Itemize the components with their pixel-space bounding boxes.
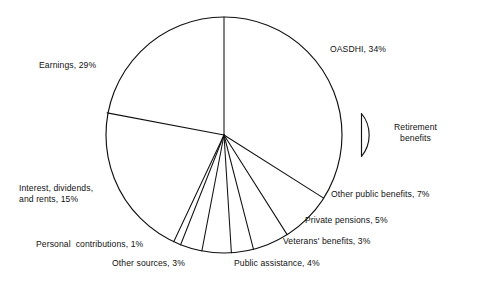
- label-private-pensions: Private pensions, 5%: [305, 215, 388, 226]
- label-other-sources: Other sources, 3%: [112, 258, 185, 269]
- retirement-benefits-wedge-icon: [362, 114, 370, 157]
- label-oasdhi: OASDHI, 34%: [330, 44, 386, 55]
- label-personal-contributions: Personal contributions, 1%: [36, 239, 143, 250]
- label-other-public-benefits: Other public benefits, 7%: [331, 189, 430, 200]
- label-public-assistance: Public assistance, 4%: [234, 258, 320, 269]
- label-earnings: Earnings, 29%: [39, 60, 96, 71]
- label-retirement-benefits-line1: Retirement: [394, 122, 437, 133]
- label-veterans-benefits: Veterans' benefits, 3%: [283, 236, 370, 247]
- label-retirement-benefits-line2: benefits: [400, 133, 431, 144]
- pie-chart-figure: OASDHI, 34% Earnings, 29% Interest, divi…: [0, 0, 480, 288]
- label-interest-line1: Interest, dividends,: [19, 183, 93, 194]
- label-interest-line2: and rents, 15%: [19, 194, 78, 205]
